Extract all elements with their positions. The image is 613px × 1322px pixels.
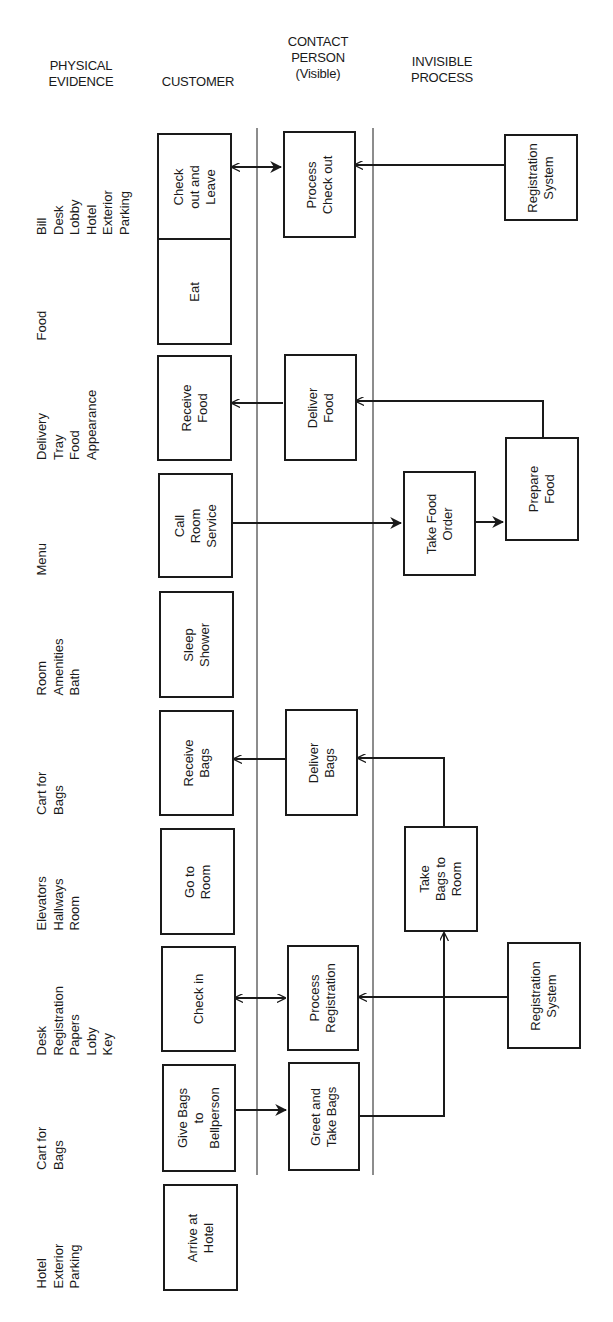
evidence-arrive: Hotel Exterior Parking [34, 1218, 86, 1288]
box-line: to [191, 1087, 207, 1148]
evidence-call-room-service: Menu [34, 535, 54, 575]
evidence-line: Bags [51, 1110, 68, 1170]
customer-box-eat: Eat [157, 238, 232, 345]
contact-box-process-registration: ProcessRegistration [287, 945, 359, 1051]
customer-box-check-in: Check in [161, 946, 236, 1052]
box-line: Arrive at [185, 1213, 201, 1261]
box-line: Deliver [305, 387, 321, 427]
customer-box-call-room-service: CallRoomService [158, 473, 233, 578]
evidence-checkout: Bill Desk Lobby Hotel Exterior Parking [34, 130, 134, 235]
box-line: Call [172, 504, 188, 547]
box-line: Process [304, 155, 320, 214]
customer-box-sleep-shower: SleepShower [159, 591, 234, 698]
evidence-line: Food [67, 380, 84, 460]
invisible-box-prepare-food: PrepareFood [505, 437, 579, 541]
evidence-line: Appearance [84, 380, 101, 460]
evidence-line: Amenities [51, 620, 68, 695]
evidence-eat: Food [34, 300, 54, 340]
evidence-line: Exterior [51, 1218, 68, 1288]
box-line: Food [542, 466, 558, 512]
box-line: out and [187, 165, 203, 208]
evidence-line: Registration [51, 960, 68, 1055]
box-line: Bags [197, 740, 213, 787]
box-line: Check out [320, 155, 336, 214]
evidence-line: Hotel [84, 130, 101, 235]
box-line: Bags to [433, 857, 449, 901]
customer-box-check-out: Checkout andLeave [157, 133, 232, 240]
contact-box-deliver-bags: DeliverBags [285, 709, 358, 816]
box-line: Room [198, 864, 214, 899]
invisible-box-take-bags-to-room: TakeBags toRoom [404, 826, 478, 932]
customer-box-arrive: Arrive atHotel [163, 1184, 238, 1291]
box-line: Receive [179, 385, 195, 432]
box-line: Take [417, 857, 433, 901]
box-line: Give Bags [175, 1087, 191, 1148]
evidence-line: Room [67, 858, 84, 930]
evidence-give-bags: Cart for Bags [34, 1110, 70, 1170]
contact-box-process-check-out: ProcessCheck out [283, 131, 356, 238]
box-line: Registration [323, 963, 339, 1032]
box-line: System [541, 143, 557, 212]
customer-box-receive-bags: ReceiveBags [159, 710, 234, 816]
box-line: Registration [525, 143, 541, 212]
evidence-go-to-room: Elevators Hallways Room [34, 858, 86, 930]
evidence-receive-bags: Cart for Bags [34, 755, 70, 815]
box-line: Service [204, 504, 220, 547]
box-line: Prepare [526, 466, 542, 512]
invisible-box-registration-system-bottom: RegistrationSystem [507, 942, 581, 1049]
customer-box-receive-food: ReceiveFood [157, 355, 232, 461]
evidence-sleep: Room Amenities Bath [34, 620, 86, 695]
box-line: Room [449, 857, 465, 901]
box-line: Check [171, 165, 187, 208]
box-line: Receive [181, 740, 197, 787]
customer-box-go-to-room: Go toRoom [160, 828, 235, 935]
box-line: Deliver [306, 742, 322, 782]
evidence-line: Food [34, 300, 51, 340]
evidence-line: Tray [51, 380, 68, 460]
evidence-line: Bath [67, 620, 84, 695]
evidence-line: Cart for [34, 755, 51, 815]
evidence-line: Delivery [34, 380, 51, 460]
box-line: Sleep [181, 622, 197, 666]
box-line: Leave [203, 165, 219, 208]
box-line: Room [188, 504, 204, 547]
contact-box-greet-take-bags: Greet andTake Bags [288, 1062, 360, 1171]
evidence-line: Menu [34, 535, 51, 575]
evidence-line: Bill [34, 130, 51, 235]
box-line: Greet and [308, 1086, 324, 1147]
evidence-line: Lobby [67, 130, 84, 235]
box-line: Order [440, 493, 456, 554]
evidence-line: Parking [67, 1218, 84, 1288]
evidence-line: Key [100, 960, 117, 1055]
contact-box-deliver-food: DeliverFood [284, 354, 357, 461]
evidence-line: Exterior [100, 130, 117, 235]
evidence-receive-food: Delivery Tray Food Appearance [34, 380, 104, 460]
box-line: Take Food [424, 493, 440, 554]
evidence-line: Cart for [34, 1110, 51, 1170]
evidence-line: Room [34, 620, 51, 695]
box-line: Process [307, 963, 323, 1032]
customer-box-give-bags: Give BagstoBellperson [162, 1064, 236, 1172]
evidence-line: Desk [34, 960, 51, 1055]
evidence-line: Bags [51, 755, 68, 815]
invisible-box-take-food-order: Take FoodOrder [403, 471, 476, 576]
box-line: Hotel [201, 1213, 217, 1261]
evidence-check-in: Desk Registration Papers Loby Key [34, 960, 120, 1055]
box-line: Check in [191, 974, 207, 1025]
box-line: Registration [528, 961, 544, 1030]
evidence-line: Loby [84, 960, 101, 1055]
box-line: Bellperson [207, 1087, 223, 1148]
evidence-line: Hallways [51, 858, 68, 930]
evidence-line: Desk [51, 130, 68, 235]
evidence-line: Parking [117, 130, 134, 235]
invisible-box-registration-system-top: RegistrationSystem [504, 134, 578, 221]
evidence-line: Papers [67, 960, 84, 1055]
box-line: Food [321, 387, 337, 427]
evidence-line: Hotel [34, 1218, 51, 1288]
box-line: Eat [187, 282, 203, 302]
box-line: Food [195, 385, 211, 432]
box-line: Take Bags [324, 1086, 340, 1147]
box-line: Bags [322, 742, 338, 782]
box-line: System [544, 961, 560, 1030]
box-line: Go to [182, 864, 198, 899]
